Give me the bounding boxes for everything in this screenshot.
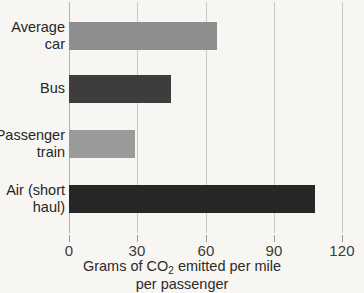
tick-label-120: 120 <box>329 242 355 259</box>
category-label-line1: Average <box>11 19 65 35</box>
bar-average-car <box>69 22 217 50</box>
category-label-line1: Passenger <box>0 127 65 143</box>
tick-mark-60 <box>206 235 207 242</box>
x-axis-title-line2: per passenger <box>0 276 364 293</box>
category-label-line2: car <box>45 36 65 52</box>
category-label-line2: haul) <box>33 199 65 215</box>
category-label-passenger-train: Passengertrain <box>0 127 65 161</box>
bar-bus <box>69 75 171 103</box>
category-label-average-car: Averagecar <box>0 19 65 53</box>
tick-mark-30 <box>137 235 138 242</box>
tick-mark-90 <box>274 235 275 242</box>
tick-label-90: 90 <box>265 242 282 259</box>
bar-passenger-train <box>69 130 135 158</box>
gridline-120 <box>342 2 343 233</box>
bar-air-short-haul <box>69 185 315 213</box>
category-label-line1: Air (short <box>6 182 65 198</box>
category-label-line2: train <box>37 144 65 160</box>
x-axis-title-part1: Grams of CO <box>83 258 168 274</box>
x-axis-title: Grams of CO2 emitted per mile per passen… <box>0 258 364 293</box>
tick-label-60: 60 <box>197 242 214 259</box>
category-label-air-short-haul: Air (shorthaul) <box>0 182 65 216</box>
tick-label-30: 30 <box>128 242 145 259</box>
x-axis-title-subscript: 2 <box>168 265 174 276</box>
plot-area: 0 30 60 90 120 <box>69 2 342 233</box>
tick-label-0: 0 <box>65 242 74 259</box>
tick-mark-0 <box>69 235 70 242</box>
tick-mark-120 <box>342 235 343 242</box>
category-label-line1: Bus <box>40 80 65 96</box>
category-label-bus: Bus <box>0 80 65 97</box>
x-axis-title-part2: emitted per mile <box>174 258 281 274</box>
